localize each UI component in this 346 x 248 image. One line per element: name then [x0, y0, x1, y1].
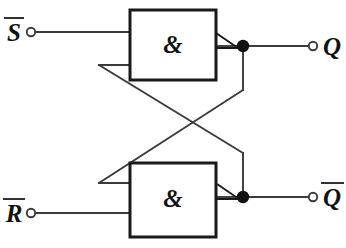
inversion-marker-layer	[216, 33, 239, 199]
junction-dot-q	[237, 40, 249, 52]
port-label-q: Q	[323, 33, 341, 60]
terminal-circle-rbar[interactable]	[27, 209, 35, 217]
junction-dot-qbar	[237, 191, 249, 203]
port-label-sbar: S	[7, 19, 21, 46]
gate-bottom-symbol: &	[163, 185, 183, 212]
port-label-qbar: Q	[323, 184, 341, 211]
terminal-circle-qbar[interactable]	[309, 193, 317, 201]
port-label-rbar: R	[5, 200, 23, 227]
terminal-circle-sbar[interactable]	[27, 28, 35, 36]
gate-top-symbol: &	[163, 31, 183, 58]
sr-latch-schematic: & & S R Q Q	[0, 0, 346, 248]
terminal-circle-q[interactable]	[309, 42, 317, 50]
circuit-diagram-canvas: & & S R Q Q	[0, 0, 346, 248]
